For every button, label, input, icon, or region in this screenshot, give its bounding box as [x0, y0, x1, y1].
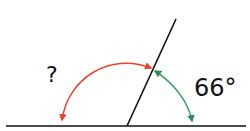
unknown-angle-label: ? — [46, 62, 58, 87]
unknown-angle-arc — [62, 63, 151, 120]
slanted-ray — [127, 19, 176, 126]
known-angle-label: 66° — [194, 74, 237, 102]
angle-diagram — [0, 0, 250, 131]
known-angle-arc — [155, 71, 192, 121]
